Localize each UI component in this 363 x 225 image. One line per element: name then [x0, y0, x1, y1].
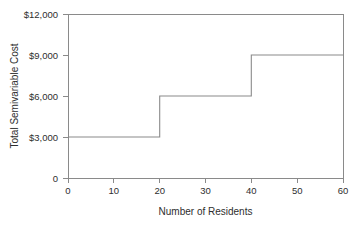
y-axis-title: Total Semivariable Cost	[9, 43, 20, 148]
x-tick-label-20: 20	[154, 185, 165, 196]
x-tick-label-10: 10	[109, 185, 120, 196]
y-tick-label-3000: $3,000	[29, 132, 58, 143]
x-tick-label-0: 0	[65, 185, 70, 196]
x-tick-label-40: 40	[246, 185, 257, 196]
x-tick-label-30: 30	[200, 185, 211, 196]
step-series-line	[68, 55, 343, 137]
y-tick-label-12000: $12,000	[24, 9, 58, 20]
chart-page: $12,000 $9,000 $6,000 $3,000 0 0 10 20 3…	[0, 0, 363, 225]
x-tick-label-50: 50	[292, 185, 303, 196]
y-tick-label-9000: $9,000	[29, 50, 58, 61]
y-tick-label-0: 0	[53, 173, 58, 184]
step-chart: $12,000 $9,000 $6,000 $3,000 0 0 10 20 3…	[0, 0, 363, 225]
x-axis-title: Number of Residents	[159, 206, 253, 217]
x-tick-label-60: 60	[338, 185, 349, 196]
y-tick-label-6000: $6,000	[29, 91, 58, 102]
